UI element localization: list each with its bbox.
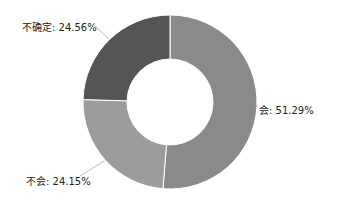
label-buhui: 不会: 24.15% [26, 173, 91, 188]
label-hui: 会: 51.29% [259, 102, 314, 117]
segment-buhui [83, 100, 167, 189]
label-buqueding: 不确定: 24.56% [22, 19, 97, 34]
segment-hui [163, 15, 257, 189]
